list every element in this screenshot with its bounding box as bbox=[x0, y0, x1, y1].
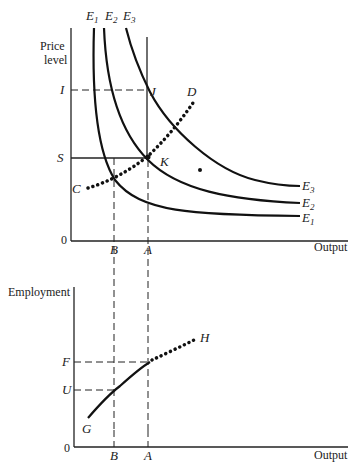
tick-b-bottom: B bbox=[110, 448, 118, 463]
y-axis-label-employment: Employment bbox=[8, 285, 71, 299]
curve-gh-dotted bbox=[152, 340, 194, 360]
point-k bbox=[146, 155, 151, 160]
label-d: D bbox=[186, 84, 197, 99]
y-axis-label-level: level bbox=[44, 53, 68, 67]
label-e3-right: E3 bbox=[301, 178, 315, 195]
tick-a-top: A bbox=[143, 242, 152, 257]
tick-f: F bbox=[61, 354, 71, 369]
label-h: H bbox=[199, 330, 210, 345]
origin-top: 0 bbox=[61, 233, 67, 247]
label-e1-top: E1 bbox=[85, 8, 98, 25]
curve-e3 bbox=[126, 28, 300, 186]
origin-bottom: 0 bbox=[64, 441, 70, 455]
tick-s: S bbox=[57, 150, 64, 165]
label-j: J bbox=[150, 84, 157, 99]
label-e2-top: E2 bbox=[104, 8, 118, 25]
tick-u: U bbox=[62, 382, 73, 397]
diagram: Price level E1 E2 E3 E3 E2 E1 I S J K C … bbox=[0, 0, 360, 464]
label-e3-top: E3 bbox=[122, 8, 136, 25]
tick-b-top: B bbox=[110, 242, 118, 257]
label-c: C bbox=[72, 181, 81, 196]
label-e1-right: E1 bbox=[301, 210, 314, 227]
x-axis-label-output-top: Output bbox=[314, 240, 348, 254]
tick-a-bottom: A bbox=[143, 448, 152, 463]
x-axis-label-output-bottom: Output bbox=[314, 448, 348, 462]
curve-cd-dotted bbox=[88, 100, 195, 188]
label-k: K bbox=[159, 154, 170, 169]
y-axis-label-price: Price bbox=[40, 39, 65, 53]
tick-i: I bbox=[59, 82, 65, 97]
stray-dot bbox=[198, 168, 202, 172]
label-g: G bbox=[82, 421, 92, 436]
